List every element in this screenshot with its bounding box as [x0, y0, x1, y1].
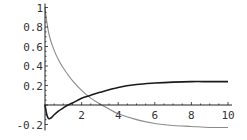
dark-rising-curve: [45, 82, 228, 119]
y-tick-label: 1: [36, 2, 43, 15]
y-ticks: -0.20.20.40.60.81: [17, 2, 49, 132]
x-tick-label: 2: [78, 109, 85, 122]
y-tick-label: 0.6: [23, 41, 43, 54]
y-tick-label: -0.2: [17, 119, 44, 132]
y-tick-label: 0.8: [23, 21, 43, 34]
y-tick-label: 0.2: [23, 80, 43, 93]
x-tick-label: 6: [151, 109, 158, 122]
x-tick-label: 10: [221, 109, 234, 122]
gray-decaying-curve: [45, 8, 228, 128]
axes: 246810 -0.20.20.40.60.81: [17, 2, 235, 132]
y-tick-label: 0.4: [23, 60, 43, 73]
x-tick-label: 8: [188, 109, 195, 122]
series-layer: [45, 8, 228, 128]
line-chart: 246810 -0.20.20.40.60.81: [0, 0, 247, 140]
x-tick-label: 4: [115, 109, 122, 122]
